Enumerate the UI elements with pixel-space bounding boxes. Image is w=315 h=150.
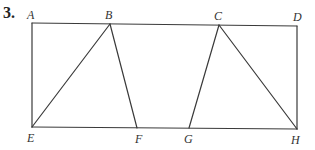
figure-canvas xyxy=(0,0,315,150)
segment-GC xyxy=(189,25,219,128)
segment-EB xyxy=(32,24,110,127)
geometry-figure: 3. A B C D E F G H xyxy=(0,0,315,150)
point-label-h: H xyxy=(291,134,300,146)
point-label-a: A xyxy=(27,9,34,21)
point-label-b: B xyxy=(105,9,112,21)
segment-CH xyxy=(219,25,297,129)
point-label-c: C xyxy=(214,10,222,22)
point-label-g: G xyxy=(184,133,193,145)
point-label-f: F xyxy=(135,133,142,145)
segment-HE xyxy=(32,127,297,129)
point-label-e: E xyxy=(27,132,34,144)
segment-BF xyxy=(110,24,137,128)
segment-AD xyxy=(32,23,297,26)
problem-number: 3. xyxy=(3,4,15,22)
point-label-d: D xyxy=(293,11,302,23)
